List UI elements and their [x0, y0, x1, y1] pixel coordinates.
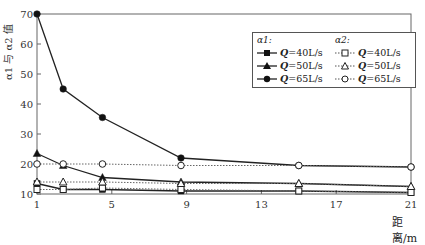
legend-group-alpha1: α1: Q=40L/s Q=50L/s Q=65L/s: [257, 35, 323, 85]
open-square-dotted-icon: [335, 48, 355, 58]
x-tick-label: 9: [183, 199, 189, 210]
data-point-open-circle: [60, 161, 67, 168]
legend-item-a1-q50: Q=50L/s: [257, 59, 323, 72]
y-tick-label: 30: [20, 129, 33, 140]
series-line: [37, 154, 411, 187]
data-point-filled-triangle: [33, 150, 41, 157]
chart-legend: α1: Q=40L/s Q=50L/s Q=65L/s α2: Q=40L/s …: [252, 32, 416, 88]
y-tick-label: 60: [20, 39, 33, 50]
legend-item-a1-q40: Q=40L/s: [257, 46, 323, 59]
data-point-open-triangle: [59, 178, 67, 185]
y-axis-label: α1 与 α2 值: [2, 24, 14, 80]
y-tick-label: 70: [20, 9, 33, 20]
data-point-open-square: [99, 185, 105, 191]
x-tick-label: 13: [255, 199, 268, 210]
x-tick-label: 17: [330, 199, 343, 210]
y-tick-label: 10: [20, 189, 33, 200]
legend-item-a1-q65: Q=65L/s: [257, 72, 323, 85]
data-point-open-square: [34, 187, 40, 193]
data-point-open-circle: [34, 161, 41, 168]
data-point-open-square: [60, 187, 66, 193]
y-tick-label: 40: [20, 99, 33, 110]
y-tick-label: 50: [20, 69, 33, 80]
filled-triangle-line-icon: [257, 61, 277, 71]
filled-square-line-icon: [257, 48, 277, 58]
legend-title-alpha1: α1:: [257, 35, 323, 46]
filled-circle-line-icon: [257, 74, 277, 84]
data-point-open-circle: [99, 161, 106, 168]
x-tick-label: 5: [109, 199, 115, 210]
open-triangle-dotted-icon: [335, 61, 355, 71]
data-point-open-circle: [408, 164, 415, 171]
legend-group-alpha2: α2: Q=40L/s Q=50L/s Q=65L/s: [335, 35, 401, 85]
legend-item-a2-q50: Q=50L/s: [335, 59, 401, 72]
x-tick-label: 1: [34, 199, 40, 210]
data-point-open-circle: [178, 162, 185, 169]
data-point-filled-circle: [34, 11, 41, 18]
data-point-filled-circle: [99, 114, 106, 121]
x-axis-label: 距离/m: [392, 213, 425, 245]
legend-item-a2-q65: Q=65L/s: [335, 72, 401, 85]
data-point-filled-circle: [178, 155, 185, 162]
data-point-open-square: [296, 188, 302, 194]
y-tick-label: 20: [20, 159, 33, 170]
data-point-filled-circle: [60, 86, 67, 93]
legend-title-alpha2: α2:: [335, 35, 401, 46]
data-point-open-square: [178, 187, 184, 193]
data-point-open-square: [408, 190, 414, 196]
x-tick-label: 21: [405, 199, 418, 210]
data-point-open-circle: [296, 162, 303, 169]
legend-item-a2-q40: Q=40L/s: [335, 46, 401, 59]
open-circle-dotted-icon: [335, 74, 355, 84]
